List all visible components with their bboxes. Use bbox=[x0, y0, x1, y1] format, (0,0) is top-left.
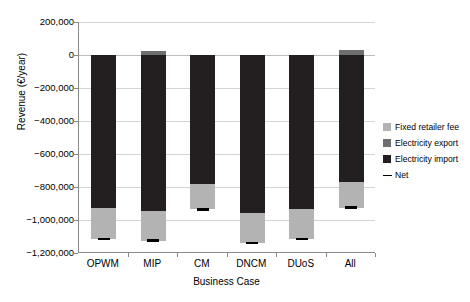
bar-segment-fixed-retailer-fee bbox=[289, 209, 314, 239]
x-axis-tick-mark bbox=[375, 253, 376, 257]
y-axis-tick-label: −200,000 bbox=[0, 83, 74, 93]
legend-item[interactable]: Fixed retailer fee bbox=[383, 120, 469, 134]
gridline bbox=[79, 121, 375, 122]
bar-segment-fixed-retailer-fee bbox=[190, 184, 215, 210]
y-axis-tick-label: −1,000,000 bbox=[0, 215, 74, 225]
chart-legend: Fixed retailer feeElectricity exportElec… bbox=[383, 120, 469, 184]
y-axis-tick-label: −1,200,000 bbox=[0, 248, 74, 258]
net-marker bbox=[98, 238, 110, 241]
x-axis-tick-mark bbox=[227, 253, 228, 257]
bar-segment-electricity-import bbox=[339, 55, 364, 182]
legend-item-label: Net bbox=[395, 171, 408, 180]
gridline bbox=[79, 55, 375, 56]
net-marker bbox=[296, 238, 308, 241]
x-axis-tick-label: MIP bbox=[143, 258, 161, 269]
x-axis-tick-mark bbox=[276, 253, 277, 257]
bar-segment-electricity-import bbox=[91, 55, 116, 208]
x-axis-tick-label: OPWM bbox=[87, 258, 119, 269]
x-axis-tick-label: All bbox=[345, 258, 356, 269]
legend-item-label: Fixed retailer fee bbox=[395, 123, 459, 132]
net-marker bbox=[197, 208, 209, 211]
y-axis-tick-label: −400,000 bbox=[0, 116, 74, 126]
bar-segment-electricity-import bbox=[141, 55, 166, 211]
y-axis-tick-label: 200,000 bbox=[0, 17, 74, 27]
legend-item-label: Electricity import bbox=[395, 155, 458, 164]
bar-segment-electricity-import bbox=[240, 55, 265, 213]
legend-swatch-net-icon bbox=[383, 171, 391, 179]
y-axis-tick-label: −800,000 bbox=[0, 182, 74, 192]
bar-segment-electricity-import bbox=[190, 55, 215, 184]
y-axis-tick-label: −600,000 bbox=[0, 149, 74, 159]
y-axis-tick-mark bbox=[73, 253, 78, 254]
net-marker bbox=[147, 239, 159, 242]
y-axis-tick-label: 0 bbox=[0, 50, 74, 60]
bar-segment-electricity-export bbox=[339, 50, 364, 55]
bar-segment-electricity-export bbox=[141, 51, 166, 55]
x-axis-tick-mark bbox=[177, 253, 178, 257]
x-axis-tick-label: DUoS bbox=[287, 258, 314, 269]
bar-segment-fixed-retailer-fee bbox=[339, 182, 364, 208]
gridline bbox=[79, 22, 375, 23]
bar-segment-fixed-retailer-fee bbox=[91, 208, 116, 239]
legend-item[interactable]: Electricity export bbox=[383, 136, 469, 150]
bar-segment-electricity-import bbox=[289, 55, 314, 209]
legend-item[interactable]: Electricity import bbox=[383, 152, 469, 166]
legend-swatch-fee-icon bbox=[383, 123, 391, 131]
x-axis-title: Business Case bbox=[78, 276, 375, 287]
chart-figure: Revenue (€/year) 200,0000−200,000−400,00… bbox=[0, 0, 470, 302]
gridline bbox=[79, 187, 375, 188]
gridline bbox=[79, 220, 375, 221]
legend-item-label: Electricity export bbox=[395, 139, 458, 148]
gridline bbox=[79, 154, 375, 155]
x-axis-tick-mark bbox=[326, 253, 327, 257]
legend-swatch-export-icon bbox=[383, 139, 391, 147]
plot-area bbox=[78, 22, 375, 253]
net-marker bbox=[345, 206, 357, 209]
x-axis-tick-mark bbox=[128, 253, 129, 257]
legend-item[interactable]: Net bbox=[383, 168, 469, 182]
bar-segment-fixed-retailer-fee bbox=[141, 211, 166, 241]
gridline bbox=[79, 88, 375, 89]
net-marker bbox=[246, 242, 258, 245]
legend-swatch-import-icon bbox=[383, 155, 391, 163]
bar-segment-fixed-retailer-fee bbox=[240, 213, 265, 244]
x-axis-tick-label: CM bbox=[194, 258, 210, 269]
x-axis-tick-label: DNCM bbox=[236, 258, 266, 269]
